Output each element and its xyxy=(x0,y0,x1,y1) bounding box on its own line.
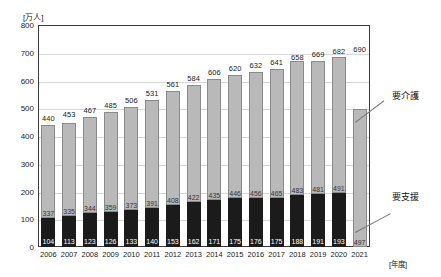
bar-segment-care xyxy=(290,61,304,195)
y-axis-tick: 200 xyxy=(0,187,34,196)
bar-segment-care xyxy=(124,107,138,211)
bar-segment-care xyxy=(166,91,180,204)
bar-column xyxy=(332,58,346,247)
bar-column xyxy=(187,85,201,247)
bar-segment-care xyxy=(207,79,221,200)
bar-segment-care xyxy=(228,75,242,199)
y-axis-tick: 700 xyxy=(0,48,34,57)
bar-total-label: 690 xyxy=(345,45,375,54)
bar-column xyxy=(62,121,76,247)
bar-segment-care xyxy=(270,69,284,198)
bar-column xyxy=(207,79,221,247)
stacked-bar-chart: [万人] [年度] 0100200300400500600700800 4403… xyxy=(0,0,441,277)
bar-column xyxy=(270,69,284,247)
bar-segment-care xyxy=(187,85,201,202)
bar-total-label: 531 xyxy=(137,89,167,98)
bar-column xyxy=(41,125,55,247)
bar-segment-care xyxy=(145,100,159,209)
bar-segment-care xyxy=(41,125,55,219)
bar-segment-care xyxy=(83,117,97,212)
y-axis-tick: 100 xyxy=(0,215,34,224)
y-axis-tick: 400 xyxy=(0,132,34,141)
y-axis-tick: 0 xyxy=(0,243,34,252)
y-axis-tick: 300 xyxy=(0,159,34,168)
bar-segment-care xyxy=(104,112,118,212)
bar-column xyxy=(228,75,242,247)
bar-column xyxy=(311,61,325,247)
bar-segment-care xyxy=(311,61,325,194)
y-axis-tick: 600 xyxy=(0,76,34,85)
bar-column xyxy=(290,64,304,247)
x-axis-tick: 2021 xyxy=(345,250,375,259)
bar-series-layer: 4403371044533351134673441234853591265063… xyxy=(38,25,370,247)
bar-care-value-label: 497 xyxy=(347,239,373,246)
legend-label-care: 要介護 xyxy=(392,89,419,102)
bar-column xyxy=(166,91,180,247)
bar-column xyxy=(249,72,263,247)
bar-column xyxy=(104,112,118,247)
y-axis-tick: 800 xyxy=(0,21,34,30)
bar-care-value-label: 491 xyxy=(326,185,352,192)
bar-segment-care xyxy=(332,57,346,193)
bar-column xyxy=(124,107,138,247)
bar-segment-care xyxy=(249,72,263,199)
bar-column xyxy=(145,100,159,247)
y-axis-tick: 500 xyxy=(0,104,34,113)
bar-column xyxy=(353,56,367,247)
legend-label-support: 要支援 xyxy=(392,190,419,203)
x-axis-unit-label: [年度] xyxy=(389,258,407,269)
bar-column xyxy=(83,117,97,247)
bar-segment-care xyxy=(62,123,76,216)
